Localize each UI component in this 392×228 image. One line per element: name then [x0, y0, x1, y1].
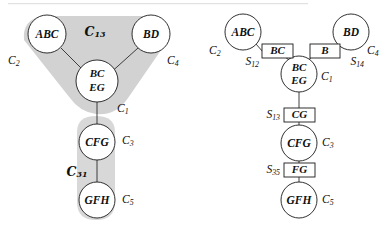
tag-c3-left: C3	[122, 134, 134, 148]
tag-c5-left: C5	[122, 193, 134, 207]
tag-c4-right: C4	[367, 44, 379, 58]
cluster-c13-sub: 13	[94, 29, 106, 39]
node-label-bd-right: BD	[342, 26, 360, 38]
cluster-c31-sub: 31	[76, 169, 87, 179]
tag-s35: S35	[266, 163, 280, 177]
separator-label-cg: CG	[292, 108, 307, 120]
node-label-bd-left: BD	[142, 28, 160, 40]
node-label-bceg-line2-right: EG	[290, 74, 306, 86]
top-rule-artifact	[8, 3, 308, 4]
node-label-cfg-right: CFG	[287, 137, 311, 149]
separator-label-b: B	[320, 44, 328, 56]
node-label-abc-right: ABC	[230, 26, 254, 38]
tag-c1-right: C1	[321, 70, 333, 84]
node-label-abc-left: ABC	[34, 28, 58, 40]
separator-label-fg: FG	[291, 163, 307, 175]
tag-c2-right: C2	[209, 44, 221, 58]
node-label-cfg-left: CFG	[85, 136, 109, 148]
tag-s12: S12	[245, 55, 259, 69]
node-label-bceg-line1-left: BC	[89, 67, 105, 79]
node-label-bceg-line1-right: BC	[291, 61, 307, 73]
tag-s13: S13	[266, 108, 280, 122]
separator-label-bc: BC	[269, 44, 285, 56]
cluster-c31-symbol: C	[66, 164, 76, 179]
node-label-bceg-line2-left: EG	[88, 81, 104, 93]
tag-s14: S14	[350, 55, 364, 69]
cluster-c13-symbol: C	[84, 24, 94, 39]
figure-junction-tree: ABC BD BC EG CFG GFH C13 C31 C2 C4 C1 C3	[0, 0, 392, 228]
tag-c1-left: C1	[117, 102, 129, 116]
node-label-gfh-right: GFH	[287, 194, 313, 206]
tag-c3-right: C3	[322, 136, 334, 150]
tag-c5-right: C5	[322, 193, 334, 207]
tag-c4-left: C4	[167, 54, 179, 68]
node-label-gfh-left: GFH	[85, 194, 111, 206]
tag-c2-left: C2	[8, 54, 20, 68]
